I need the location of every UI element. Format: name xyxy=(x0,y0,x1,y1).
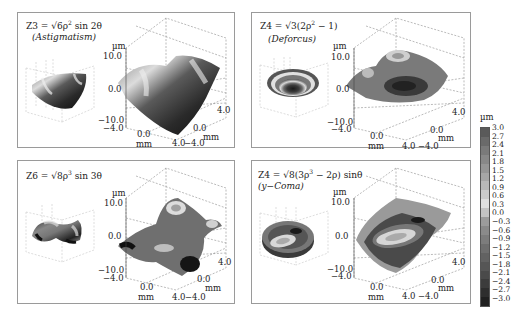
colorbar-segment xyxy=(481,244,489,253)
colorbar-segment xyxy=(481,137,489,146)
colorbar-tick-label: −3.0 xyxy=(492,295,510,304)
y-tick-high: 4.0 xyxy=(452,258,466,267)
z-tick-mid: 0.0 xyxy=(108,85,122,94)
z-tick-mid: 0.0 xyxy=(336,85,350,94)
colorbar-segment xyxy=(481,164,489,173)
measured-surface-y-coma xyxy=(336,168,468,296)
y-axis-unit: mm xyxy=(203,133,219,142)
y-tick-low: −4.0 xyxy=(418,292,439,301)
colorbar-segment xyxy=(481,208,489,217)
measured-surface-defocus xyxy=(336,18,468,146)
x-tick-mid: 0.0 xyxy=(137,130,151,139)
y-axis-unit: mm xyxy=(438,284,454,293)
x-axis-unit: mm xyxy=(368,142,384,151)
equation-text-rest: sin 2θ xyxy=(72,21,102,31)
x-tick-mid: 0.0 xyxy=(370,283,384,292)
colorbar-segment xyxy=(481,190,489,199)
z-axis-unit: µm xyxy=(333,188,347,197)
colorbar-segment xyxy=(481,217,489,226)
z-tick-high: 10.0 xyxy=(331,198,350,207)
x-tick-low: −4.0 xyxy=(331,272,352,281)
equation-text-rest: − 1) xyxy=(315,21,338,31)
colorbar xyxy=(480,127,490,307)
y-tick-low: −4.0 xyxy=(418,142,439,151)
x-axis-unit: mm xyxy=(136,140,152,149)
z-tick-mid: 0.0 xyxy=(108,232,122,241)
z-tick-mid: 0.0 xyxy=(335,232,349,241)
colorbar-segment xyxy=(481,173,489,182)
equation-text: Z6 = √8ρ xyxy=(26,171,68,181)
equation-label: Z3 = √6ρ2 sin 2θ xyxy=(26,19,102,31)
z-axis-unit: µm xyxy=(112,189,126,198)
x-axis-unit: mm xyxy=(138,293,154,302)
ideal-surface-defocus xyxy=(256,55,331,120)
colorbar-segment xyxy=(481,226,489,235)
aberration-name: (Astigmatism) xyxy=(32,32,96,42)
colorbar-segment xyxy=(481,271,489,280)
colorbar-segment xyxy=(481,155,489,164)
equation-text: Z4 = √3(2ρ xyxy=(260,21,311,31)
x-tick-low: −4.0 xyxy=(103,124,124,133)
ideal-surface-astigmatism xyxy=(22,50,97,120)
colorbar-segment xyxy=(481,279,489,288)
colorbar-segment xyxy=(481,235,489,244)
ideal-surface-y-coma xyxy=(256,205,331,270)
z-tick-high: 10.0 xyxy=(104,199,123,208)
colorbar-segment xyxy=(481,199,489,208)
x-tick-mid: 0.0 xyxy=(140,283,154,292)
y-axis-unit: mm xyxy=(205,284,221,293)
x-tick-high: 4.0 xyxy=(172,293,186,302)
y-tick-high: 4.0 xyxy=(217,106,231,115)
x-tick-high: 4.0 xyxy=(402,142,416,151)
x-tick-low: −4.0 xyxy=(331,125,352,134)
x-axis-unit: mm xyxy=(368,293,384,302)
x-tick-low: −4.0 xyxy=(103,274,124,283)
colorbar-ticks: 3.02.72.42.11.81.51.20.90.60.30.0−0.3−0.… xyxy=(492,124,510,303)
equation-label: Z4 = √3(2ρ2 − 1) xyxy=(260,19,338,31)
colorbar-segment xyxy=(481,262,489,271)
colorbar-segment xyxy=(481,253,489,262)
aberration-name: (y−Coma) xyxy=(258,181,304,191)
colorbar-segment xyxy=(481,297,489,306)
y-tick-low: −4.0 xyxy=(184,139,205,148)
equation-label: Z6 = √8ρ3 sin 3θ xyxy=(26,169,102,181)
colorbar-segment xyxy=(481,181,489,190)
z-tick-high: 10.0 xyxy=(331,53,350,62)
aberration-name: (Deforcus) xyxy=(268,34,316,44)
colorbar-segment xyxy=(481,288,489,297)
y-tick-high: 4.0 xyxy=(452,108,466,117)
x-tick-mid: 0.0 xyxy=(370,132,384,141)
y-tick-low: −4.0 xyxy=(185,293,206,302)
colorbar-unit: µm xyxy=(480,112,494,122)
equation-text: Z4 = √8(3ρ xyxy=(258,170,309,180)
colorbar-segment xyxy=(481,146,489,155)
equation-text: Z3 = √6ρ xyxy=(26,21,68,31)
z-axis-unit: µm xyxy=(333,42,347,51)
measured-surface-astigmatism xyxy=(106,18,231,146)
equation-text-rest: sin 3θ xyxy=(72,171,102,181)
colorbar-segment xyxy=(481,128,489,137)
x-tick-high: 4.0 xyxy=(402,292,416,301)
ideal-surface-trefoil xyxy=(22,200,97,265)
z-axis-unit: µm xyxy=(112,42,126,51)
y-axis-unit: mm xyxy=(438,134,454,143)
z-tick-high: 10.0 xyxy=(103,52,122,61)
y-tick-high: 4.0 xyxy=(218,258,232,267)
